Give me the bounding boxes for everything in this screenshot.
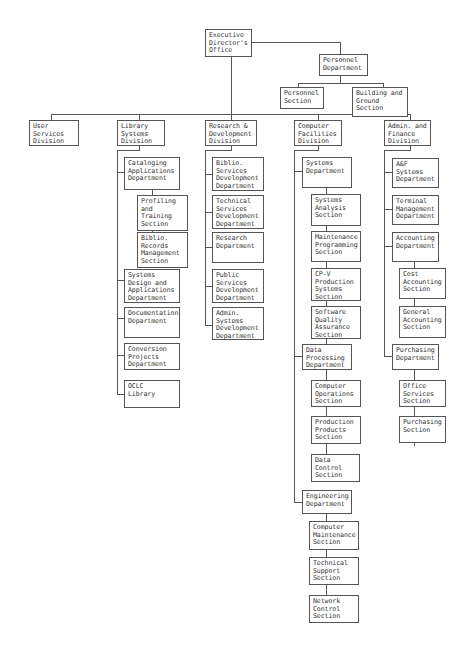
general-accounting-section-box: General Accounting Section — [399, 306, 446, 338]
research-dept-box: Research Department — [212, 232, 264, 263]
computer-operations-section-box: Computer Operations Section — [311, 380, 361, 407]
cataloging-dept-box: Cataloging Applications Department — [124, 157, 180, 190]
purchasing-section-box: Purchasing Section — [399, 416, 446, 443]
technical-support-section-box: Technical Support Section — [309, 557, 359, 585]
connector — [117, 150, 140, 151]
connector — [252, 42, 341, 43]
connector — [384, 246, 392, 247]
connector — [205, 150, 232, 151]
connector — [384, 172, 392, 173]
connector — [117, 355, 124, 356]
accounting-dept-box: Accounting Department — [392, 232, 439, 262]
connector — [294, 150, 319, 151]
biblio-records-section-box: Biblio. Records Management Section — [137, 232, 188, 268]
admin-finance-division-box: Admin. and Finance Division — [384, 120, 431, 146]
connector — [384, 150, 411, 151]
connector — [117, 394, 124, 395]
library-systems-division-box: Library Systems Division — [117, 120, 165, 146]
computer-maintenance-section-box: Computer Maintenance Section — [309, 521, 359, 550]
connector — [340, 42, 341, 54]
data-control-section-box: Data Control Section — [311, 454, 360, 482]
connector — [294, 502, 302, 503]
rd-division-box: Research & Development Division — [205, 120, 257, 146]
cpv-production-section-box: CP-V Production Systems Section — [311, 268, 361, 301]
connector — [384, 150, 385, 356]
connector — [117, 172, 124, 173]
cost-accounting-section-box: Cost Accounting Section — [399, 268, 446, 299]
public-services-dept-box: Public Services Development Department — [212, 269, 264, 303]
network-control-section-box: Network Control Section — [309, 595, 359, 623]
software-qa-section-box: Software Quality Assurance Section — [311, 306, 361, 339]
oclc-library-box: OCLC Library — [124, 380, 180, 408]
connector — [205, 212, 212, 213]
connector — [231, 57, 232, 114]
user-services-division-box: User Services Division — [29, 120, 79, 146]
terminal-management-dept-box: Terminal Management Department — [392, 195, 439, 225]
systems-design-dept-box: Systems Design and Applications Departme… — [124, 269, 180, 303]
conversion-dept-box: Conversion Projects Department — [124, 343, 180, 370]
personnel-section-box: Personnel Section — [280, 87, 324, 109]
connector — [384, 356, 392, 357]
engineering-dept-box: Engineering Department — [302, 490, 352, 514]
connector — [294, 150, 295, 503]
profiling-section-box: Profiling and Training Section — [137, 195, 188, 231]
connector — [294, 356, 302, 357]
connector — [117, 318, 124, 319]
connector — [294, 171, 302, 172]
systems-analysis-section-box: Systems Analysis Section — [311, 194, 361, 226]
production-products-section-box: Production Products Section — [311, 416, 361, 444]
purchasing-dept-box: Purchasing Department — [392, 344, 439, 370]
technical-services-dept-box: Technical Services Development Departmen… — [212, 195, 264, 229]
af-systems-dept-box: A&F Systems Department — [392, 158, 439, 188]
connector — [205, 174, 212, 175]
maintenance-programming-section-box: Maintenance Programming Section — [311, 231, 361, 262]
biblio-services-dept-box: Biblio. Services Development Department — [212, 157, 264, 191]
connector — [298, 83, 384, 84]
connector — [117, 280, 124, 281]
office-services-section-box: Office Services Section — [399, 380, 446, 407]
connector — [117, 150, 118, 395]
systems-dept-box: Systems Department — [302, 157, 352, 188]
connector — [340, 76, 341, 83]
admin-systems-dept-box: Admin. Systems Development Department — [212, 307, 264, 340]
connector — [205, 247, 212, 248]
connector — [384, 209, 392, 210]
exec-office-box: Executive Director's Office — [205, 29, 252, 57]
data-processing-dept-box: Data Processing Department — [302, 344, 352, 370]
documentation-dept-box: Documentation Department — [124, 307, 180, 338]
connector — [205, 325, 212, 326]
computer-facilities-division-box: Computer Facilities Division — [294, 120, 342, 146]
personnel-department-box: Personnel Department — [319, 54, 368, 76]
connector — [205, 286, 212, 287]
building-ground-section-box: Building and Ground Section — [352, 87, 408, 117]
connector — [205, 150, 206, 326]
